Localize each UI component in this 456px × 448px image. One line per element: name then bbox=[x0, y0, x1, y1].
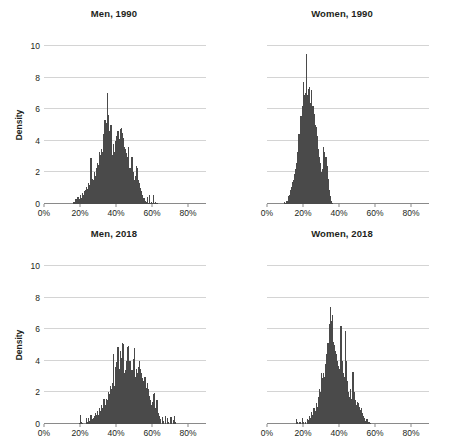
x-axis-tick-mark bbox=[339, 424, 340, 427]
x-axis-tick-mark bbox=[152, 204, 153, 207]
x-axis-tick-label: 60% bbox=[143, 208, 160, 218]
histogram-bars bbox=[267, 266, 429, 424]
x-axis-tick-mark bbox=[80, 424, 81, 427]
cropped-header-text bbox=[0, 0, 456, 4]
histogram-bar bbox=[82, 423, 83, 424]
x-axis-tick-label: 60% bbox=[366, 428, 383, 438]
x-axis-tick-label: 20% bbox=[71, 208, 88, 218]
histogram-bar bbox=[156, 203, 157, 204]
histogram-bars bbox=[44, 46, 206, 204]
x-axis-tick-label: 20% bbox=[294, 208, 311, 218]
x-axis-tick-label: 40% bbox=[107, 208, 124, 218]
histogram-bar bbox=[163, 421, 164, 424]
histogram-bar bbox=[305, 422, 306, 424]
x-axis-tick-mark bbox=[411, 204, 412, 207]
plot-area: Density 02468100%20%40%60%80% bbox=[44, 46, 206, 204]
x-axis-tick-mark bbox=[116, 424, 117, 427]
x-axis-tick-label: 80% bbox=[402, 208, 419, 218]
y-axis-tick-label: 10 bbox=[31, 41, 40, 51]
y-axis-title: Density bbox=[14, 110, 24, 141]
histogram-bar bbox=[160, 419, 161, 424]
y-axis-tick-label: 2 bbox=[35, 387, 40, 397]
y-axis-title: Density bbox=[14, 330, 24, 361]
x-axis-tick-mark bbox=[152, 424, 153, 427]
y-axis-tick-label: 4 bbox=[35, 356, 40, 366]
histogram-bars bbox=[44, 266, 206, 424]
panel-women-2018: Women, 2018 0%20%40%60%80% bbox=[228, 228, 456, 440]
histogram-bar bbox=[303, 422, 304, 424]
x-axis-tick-label: 40% bbox=[330, 428, 347, 438]
y-axis-tick-label: 10 bbox=[31, 261, 40, 271]
y-axis-tick-label: 8 bbox=[35, 293, 40, 303]
x-axis-tick-mark bbox=[188, 204, 189, 207]
histogram-bar bbox=[299, 422, 300, 424]
histogram-bar bbox=[332, 203, 333, 204]
panel-title: Men, 2018 bbox=[0, 228, 228, 239]
panel-women-1990: Women, 1990 0%20%40%60%80% bbox=[228, 8, 456, 220]
x-axis-tick-mark bbox=[267, 204, 268, 207]
x-axis-tick-mark bbox=[411, 424, 412, 427]
panel-men-1990: Men, 1990 Density 02468100%20%40%60%80% bbox=[0, 8, 228, 220]
x-axis-tick-label: 0% bbox=[261, 208, 273, 218]
histogram-bar bbox=[165, 416, 166, 424]
panel-title: Women, 1990 bbox=[228, 8, 456, 19]
panel-title: Men, 1990 bbox=[0, 8, 228, 19]
x-axis-tick-label: 0% bbox=[261, 428, 273, 438]
x-axis-tick-label: 40% bbox=[330, 208, 347, 218]
x-axis-tick-mark bbox=[339, 204, 340, 207]
plot-area: Density 02468100%20%40%60%80% bbox=[44, 266, 206, 424]
x-axis-tick-mark bbox=[375, 204, 376, 207]
y-axis-tick-label: 6 bbox=[35, 324, 40, 334]
x-axis-tick-mark bbox=[188, 424, 189, 427]
x-axis-tick-label: 0% bbox=[38, 428, 50, 438]
x-axis-tick-mark bbox=[375, 424, 376, 427]
x-axis-tick-label: 80% bbox=[179, 428, 196, 438]
y-axis-tick-label: 6 bbox=[35, 104, 40, 114]
histogram-bar bbox=[175, 422, 176, 424]
y-axis-tick-label: 8 bbox=[35, 73, 40, 83]
x-axis-tick-label: 20% bbox=[294, 428, 311, 438]
histogram-bar bbox=[370, 423, 371, 424]
panel-men-2018: Men, 2018 Density 02468100%20%40%60%80% bbox=[0, 228, 228, 440]
histogram-bars bbox=[267, 46, 429, 204]
plot-area: 0%20%40%60%80% bbox=[267, 266, 429, 424]
x-axis-tick-label: 20% bbox=[71, 428, 88, 438]
plot-area: 0%20%40%60%80% bbox=[267, 46, 429, 204]
histogram-bar bbox=[168, 422, 169, 424]
x-axis-tick-label: 80% bbox=[402, 428, 419, 438]
x-axis-tick-mark bbox=[80, 204, 81, 207]
figure-canvas: Men, 1990 Density 02468100%20%40%60%80% … bbox=[0, 0, 456, 448]
histogram-bar bbox=[297, 422, 298, 424]
x-axis-tick-mark bbox=[116, 204, 117, 207]
x-axis-tick-mark bbox=[303, 204, 304, 207]
x-axis-tick-label: 0% bbox=[38, 208, 50, 218]
panel-title: Women, 2018 bbox=[228, 228, 456, 239]
histogram-bar bbox=[170, 417, 171, 424]
x-axis-tick-label: 60% bbox=[143, 428, 160, 438]
x-axis-tick-mark bbox=[44, 204, 45, 207]
x-axis-tick-label: 80% bbox=[179, 208, 196, 218]
x-axis-tick-mark bbox=[303, 424, 304, 427]
x-axis-tick-mark bbox=[267, 424, 268, 427]
x-axis-tick-label: 40% bbox=[107, 428, 124, 438]
x-axis-tick-label: 60% bbox=[366, 208, 383, 218]
x-axis-tick-mark bbox=[44, 424, 45, 427]
y-axis-tick-label: 4 bbox=[35, 136, 40, 146]
y-axis-tick-label: 2 bbox=[35, 167, 40, 177]
